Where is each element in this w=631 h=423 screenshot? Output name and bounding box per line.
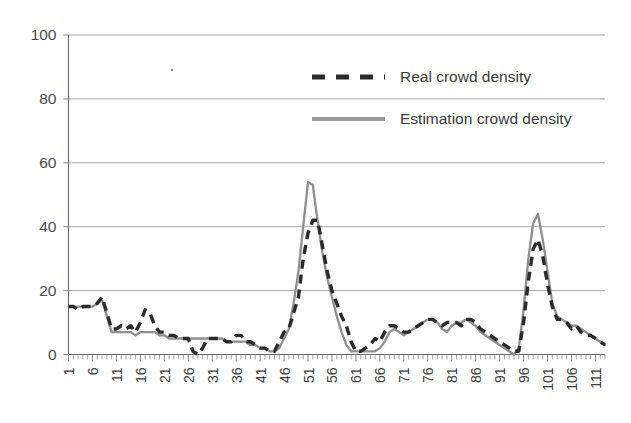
x-tick-label-76: 76 bbox=[420, 367, 436, 383]
x-tick-label-16: 16 bbox=[133, 367, 149, 383]
legend-label-real-crowd-density: Real crowd density bbox=[400, 68, 531, 85]
x-tick-label-31: 31 bbox=[205, 367, 221, 383]
chart-canvas: 020406080100 161116212631364146515661667… bbox=[0, 0, 631, 423]
x-tick-label-21: 21 bbox=[157, 367, 173, 383]
y-tick-label-20: 20 bbox=[39, 282, 57, 299]
x-tick-label-81: 81 bbox=[444, 367, 460, 383]
x-tick-label-86: 86 bbox=[468, 367, 484, 383]
x-tick-label-56: 56 bbox=[324, 367, 340, 383]
x-tick-label-71: 71 bbox=[396, 367, 412, 383]
crowd-density-chart: 020406080100 161116212631364146515661667… bbox=[0, 0, 631, 423]
x-tick-label-91: 91 bbox=[492, 367, 508, 383]
x-tick-label-51: 51 bbox=[301, 367, 317, 383]
y-tick-label-80: 80 bbox=[39, 90, 57, 107]
x-tick-label-101: 101 bbox=[540, 367, 556, 391]
x-tick-label-11: 11 bbox=[109, 367, 125, 382]
x-tick-label-111: 111 bbox=[588, 367, 604, 388]
x-tick-label-26: 26 bbox=[181, 367, 197, 383]
y-tick-label-40: 40 bbox=[39, 218, 57, 235]
y-tick-label-100: 100 bbox=[31, 26, 57, 43]
x-tick-label-1: 1 bbox=[61, 367, 77, 375]
x-tick-label-36: 36 bbox=[229, 367, 245, 383]
x-tick-label-41: 41 bbox=[253, 367, 269, 383]
x-tick-label-46: 46 bbox=[277, 367, 293, 383]
x-tick-label-61: 61 bbox=[348, 367, 364, 383]
y-tick-label-60: 60 bbox=[39, 154, 57, 171]
y-tick-label-0: 0 bbox=[48, 346, 57, 363]
scan-speck-artifact bbox=[171, 69, 174, 72]
x-tick-label-106: 106 bbox=[564, 367, 580, 391]
x-tick-label-96: 96 bbox=[516, 367, 532, 383]
legend-label-estimation-crowd-density: Estimation crowd density bbox=[400, 110, 572, 127]
x-tick-label-6: 6 bbox=[85, 367, 101, 375]
x-tick-label-66: 66 bbox=[372, 367, 388, 383]
